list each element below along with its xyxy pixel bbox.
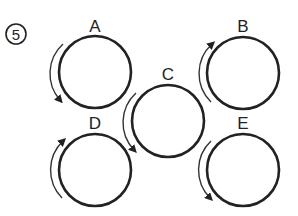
wheel-a-circle	[59, 36, 131, 108]
wheel-c-label: C	[162, 65, 174, 84]
wheel-c-arrow-down-icon	[123, 93, 136, 150]
wheel-a-label: A	[89, 17, 101, 36]
wheel-a-arrow-down-icon	[50, 44, 63, 100]
wheel-d: D	[51, 114, 131, 206]
wheel-d-circle	[59, 134, 131, 206]
wheel-a: A	[50, 17, 131, 108]
wheel-b: B	[199, 17, 279, 109]
gear-diagram: 5 A B C D E	[0, 0, 298, 216]
wheel-e-arrow-down-icon	[199, 141, 211, 198]
wheel-c-circle	[132, 85, 204, 157]
wheel-b-label: B	[237, 17, 248, 36]
wheel-d-arrow-up-icon	[51, 141, 63, 198]
wheel-d-label: D	[89, 114, 101, 133]
problem-number-text: 5	[12, 26, 20, 43]
wheel-b-arrow-up-icon	[199, 44, 212, 102]
wheel-c: C	[123, 65, 204, 157]
problem-number: 5	[6, 24, 26, 44]
wheel-b-circle	[207, 37, 279, 109]
wheel-e: E	[199, 114, 279, 206]
wheel-e-label: E	[237, 114, 248, 133]
wheel-e-circle	[207, 134, 279, 206]
